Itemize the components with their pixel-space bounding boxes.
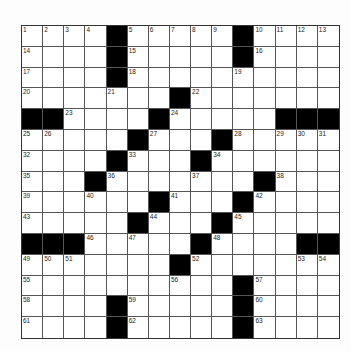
grid-cell[interactable]: 58 <box>22 296 43 317</box>
grid-cell[interactable]: 55 <box>22 276 43 297</box>
grid-cell[interactable]: 43 <box>22 213 43 234</box>
grid-cell[interactable]: 52 <box>191 255 212 276</box>
grid-cell[interactable] <box>43 47 64 68</box>
grid-cell[interactable] <box>191 296 212 317</box>
grid-cell[interactable] <box>170 172 191 193</box>
grid-cell[interactable] <box>276 47 297 68</box>
grid-cell[interactable] <box>149 317 170 338</box>
grid-cell[interactable] <box>233 109 254 130</box>
grid-cell[interactable] <box>191 130 212 151</box>
grid-cell[interactable] <box>64 68 85 89</box>
grid-cell[interactable] <box>233 234 254 255</box>
grid-cell[interactable] <box>233 255 254 276</box>
grid-cell[interactable] <box>149 172 170 193</box>
grid-cell[interactable] <box>254 151 275 172</box>
grid-cell[interactable]: 51 <box>64 255 85 276</box>
grid-cell[interactable] <box>43 172 64 193</box>
grid-cell[interactable] <box>233 88 254 109</box>
grid-cell[interactable] <box>297 151 318 172</box>
grid-cell[interactable] <box>43 213 64 234</box>
grid-cell[interactable] <box>170 47 191 68</box>
grid-cell[interactable]: 44 <box>149 213 170 234</box>
grid-cell[interactable] <box>233 172 254 193</box>
grid-cell[interactable] <box>191 276 212 297</box>
grid-cell[interactable] <box>170 213 191 234</box>
grid-cell[interactable]: 19 <box>233 68 254 89</box>
grid-cell[interactable] <box>191 109 212 130</box>
grid-cell[interactable] <box>212 296 233 317</box>
grid-cell[interactable] <box>212 109 233 130</box>
grid-cell[interactable] <box>128 88 149 109</box>
grid-cell[interactable]: 53 <box>297 255 318 276</box>
grid-cell[interactable] <box>149 276 170 297</box>
grid-cell[interactable] <box>43 276 64 297</box>
grid-cell[interactable] <box>318 172 339 193</box>
grid-cell[interactable] <box>170 234 191 255</box>
grid-cell[interactable]: 36 <box>107 172 128 193</box>
grid-cell[interactable] <box>170 130 191 151</box>
grid-cell[interactable] <box>318 47 339 68</box>
grid-cell[interactable] <box>276 151 297 172</box>
grid-cell[interactable] <box>149 68 170 89</box>
grid-cell[interactable]: 20 <box>22 88 43 109</box>
grid-cell[interactable]: 28 <box>233 130 254 151</box>
grid-cell[interactable]: 11 <box>276 26 297 47</box>
grid-cell[interactable] <box>254 255 275 276</box>
grid-cell[interactable] <box>85 276 106 297</box>
grid-cell[interactable] <box>318 68 339 89</box>
grid-cell[interactable] <box>318 192 339 213</box>
grid-cell[interactable] <box>254 130 275 151</box>
grid-cell[interactable] <box>64 88 85 109</box>
grid-cell[interactable] <box>128 276 149 297</box>
grid-cell[interactable] <box>233 151 254 172</box>
grid-cell[interactable]: 32 <box>22 151 43 172</box>
grid-cell[interactable] <box>149 151 170 172</box>
grid-cell[interactable] <box>85 47 106 68</box>
grid-cell[interactable]: 16 <box>254 47 275 68</box>
grid-cell[interactable] <box>128 172 149 193</box>
grid-cell[interactable]: 49 <box>22 255 43 276</box>
grid-cell[interactable] <box>191 192 212 213</box>
grid-cell[interactable] <box>297 47 318 68</box>
grid-cell[interactable] <box>170 317 191 338</box>
grid-cell[interactable] <box>170 151 191 172</box>
grid-cell[interactable]: 37 <box>191 172 212 193</box>
grid-cell[interactable]: 26 <box>43 130 64 151</box>
grid-cell[interactable] <box>297 276 318 297</box>
grid-cell[interactable] <box>212 68 233 89</box>
grid-cell[interactable] <box>191 317 212 338</box>
grid-cell[interactable] <box>297 317 318 338</box>
grid-cell[interactable]: 3 <box>64 26 85 47</box>
grid-cell[interactable] <box>128 109 149 130</box>
grid-cell[interactable] <box>318 88 339 109</box>
grid-cell[interactable] <box>107 234 128 255</box>
grid-cell[interactable] <box>43 88 64 109</box>
grid-cell[interactable] <box>297 88 318 109</box>
grid-cell[interactable] <box>254 213 275 234</box>
grid-cell[interactable]: 54 <box>318 255 339 276</box>
grid-cell[interactable]: 1 <box>22 26 43 47</box>
grid-cell[interactable] <box>212 88 233 109</box>
grid-cell[interactable] <box>43 68 64 89</box>
grid-cell[interactable]: 45 <box>233 213 254 234</box>
grid-cell[interactable] <box>107 192 128 213</box>
grid-cell[interactable] <box>276 192 297 213</box>
grid-cell[interactable] <box>212 47 233 68</box>
grid-cell[interactable] <box>85 317 106 338</box>
grid-cell[interactable] <box>107 213 128 234</box>
grid-cell[interactable] <box>254 68 275 89</box>
grid-cell[interactable] <box>212 317 233 338</box>
grid-cell[interactable]: 8 <box>191 26 212 47</box>
grid-cell[interactable] <box>297 68 318 89</box>
grid-cell[interactable]: 40 <box>85 192 106 213</box>
grid-cell[interactable] <box>149 296 170 317</box>
grid-cell[interactable] <box>107 109 128 130</box>
grid-cell[interactable] <box>212 172 233 193</box>
grid-cell[interactable]: 18 <box>128 68 149 89</box>
grid-cell[interactable]: 5 <box>128 26 149 47</box>
grid-cell[interactable]: 59 <box>128 296 149 317</box>
grid-cell[interactable]: 27 <box>149 130 170 151</box>
grid-cell[interactable] <box>43 296 64 317</box>
grid-cell[interactable] <box>191 68 212 89</box>
grid-cell[interactable] <box>318 213 339 234</box>
